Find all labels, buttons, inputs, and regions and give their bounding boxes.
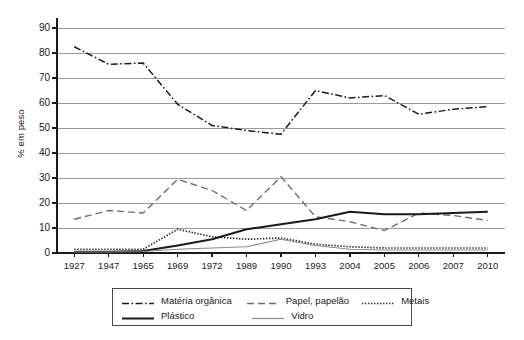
series-line-4: [74, 239, 488, 252]
gridlines: [57, 28, 505, 228]
legend-line-style-icon: [121, 310, 155, 321]
legend-item-label: Metais: [401, 295, 429, 306]
legend-line-style-icon: [246, 295, 280, 306]
legend-line-style-icon: [361, 295, 395, 306]
legend-item-label: Vidro: [291, 310, 313, 321]
legend-item-dash-dot[interactable]: Matéria orgânica: [121, 293, 232, 308]
legend-item-label: Plástico: [161, 310, 194, 321]
chart-legend: Matéria orgânicaPapel, papelãoMetais Plá…: [112, 288, 412, 326]
legend-row-primary: Matéria orgânicaPapel, papelãoMetais: [113, 293, 411, 308]
legend-item-label: Papel, papelão: [286, 295, 349, 306]
series-line-1: [74, 177, 488, 231]
series-line-0: [74, 47, 488, 135]
line-chart-plot: [0, 0, 524, 275]
legend-item-dotted[interactable]: Metais: [361, 293, 429, 308]
legend-line-style-icon: [251, 310, 285, 321]
legend-item-solid-thin[interactable]: Vidro: [251, 308, 313, 323]
legend-item-dashed[interactable]: Papel, papelão: [246, 293, 349, 308]
legend-item-label: Matéria orgânica: [161, 295, 232, 306]
series-line-3: [74, 212, 488, 252]
legend-item-solid-thick[interactable]: Plástico: [121, 308, 194, 323]
plot-area: % em peso 9080706050403020100 1927194719…: [0, 0, 524, 275]
legend-line-style-icon: [121, 295, 155, 306]
legend-row-secondary: PlásticoVidro: [113, 308, 411, 323]
chart-container: % em peso 9080706050403020100 1927194719…: [0, 0, 524, 340]
